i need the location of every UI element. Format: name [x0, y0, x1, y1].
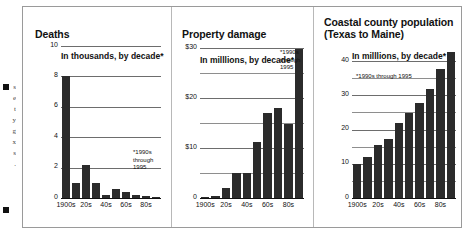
bleed-square-bottom	[3, 207, 9, 213]
y-axis-tick-label: 10	[50, 40, 58, 47]
bar	[447, 52, 455, 198]
x-axis-tick-label: 40s	[241, 201, 252, 208]
x-axis-tick-label: 20s	[80, 201, 91, 208]
x-axis-tick-label: 80s	[140, 201, 151, 208]
bar	[436, 69, 444, 198]
y-axis-tick-label: $10	[185, 142, 197, 149]
bar	[363, 157, 371, 198]
bar	[415, 103, 423, 198]
bar	[222, 188, 230, 198]
y-axis-tick-label: $20	[185, 92, 197, 99]
chart-footnote-property-damage: *1990s through 1995	[280, 49, 300, 72]
bar	[122, 192, 130, 198]
bar	[82, 165, 90, 198]
y-axis-tick-label: 6	[54, 101, 58, 108]
bar	[243, 173, 251, 198]
y-axis-tick-label: 20	[341, 124, 349, 131]
bar	[142, 196, 150, 198]
bar	[152, 197, 160, 198]
bar	[211, 196, 219, 198]
bar	[232, 173, 240, 198]
chart-title-coastal-population: Coastal county population (Texas to Main…	[324, 17, 463, 40]
chart-footnote-coastal-population: *1990s through 1995	[356, 73, 412, 81]
plot-area-deaths: 0246810	[61, 47, 161, 199]
bar	[132, 195, 140, 198]
bar	[274, 108, 282, 198]
y-axis-tick-label: 4	[54, 131, 58, 138]
y-axis-tick-label: 2	[54, 162, 58, 169]
bar	[405, 113, 413, 198]
bar	[284, 124, 292, 199]
plot-area-property-damage: 0$10$20$30	[200, 49, 304, 199]
y-axis-tick-label: 30	[341, 89, 349, 96]
bar	[92, 183, 100, 198]
bar	[263, 113, 271, 198]
x-axis-tick-label: 80s	[435, 201, 446, 208]
plot-area-coastal-population: 010203040	[352, 45, 456, 199]
bar-group	[61, 47, 161, 198]
chart-panel-deaths: Deaths In thousands, by decade* *1990s t…	[23, 7, 171, 227]
y-axis-tick-label: 10	[341, 158, 349, 165]
chart-frame: Deaths In thousands, by decade* *1990s t…	[22, 6, 462, 228]
bar	[384, 139, 392, 199]
infographic-root: s e t y g x s . Deaths In thousands, by …	[0, 0, 468, 238]
x-axis-tick-label: 1900s	[56, 201, 75, 208]
x-axis-tick-label: 1900s	[196, 201, 215, 208]
bleed-square-top	[3, 84, 9, 90]
bar	[374, 145, 382, 198]
x-axis-tick-label: 60s	[262, 201, 273, 208]
bar	[62, 76, 70, 198]
chart-footnote-deaths: *1990s through 1995	[133, 149, 153, 172]
bar	[201, 197, 209, 198]
x-axis-tick-label: 60s	[414, 201, 425, 208]
bar	[102, 195, 110, 198]
y-axis-tick-label: $30	[185, 42, 197, 49]
x-axis-tick-label: 20s	[372, 201, 383, 208]
chart-title-property-damage: Property damage	[182, 29, 266, 41]
x-axis-tick-label: 40s	[100, 201, 111, 208]
bar	[353, 164, 361, 198]
bar	[112, 189, 120, 198]
axis-baseline	[352, 198, 456, 199]
axis-baseline	[200, 198, 304, 199]
chart-panel-coastal-population: Coastal county population (Texas to Main…	[313, 7, 463, 227]
x-axis-tick-label: 80s	[283, 201, 294, 208]
page-bleed-text: s e t y g x s .	[0, 82, 16, 222]
bar	[72, 183, 80, 198]
bar	[395, 123, 403, 198]
bar-group	[352, 45, 456, 198]
y-axis-tick-label: 0	[54, 192, 58, 199]
y-axis-tick-label: 40	[341, 55, 349, 62]
axis-baseline	[61, 198, 161, 199]
x-axis-tick-label: 40s	[393, 201, 404, 208]
y-axis-tick-label: 0	[345, 192, 349, 199]
x-axis-tick-label: 20s	[220, 201, 231, 208]
chart-panel-property-damage: Property damage In milllions, by decade*…	[171, 7, 313, 227]
chart-title-deaths: Deaths	[35, 29, 69, 41]
bar	[426, 89, 434, 198]
bar	[253, 142, 261, 198]
chart-subtitle-coastal-population: In milllions, by decade*	[352, 51, 446, 61]
x-axis-tick-label: 60s	[120, 201, 131, 208]
x-axis-tick-label: 1900s	[348, 201, 367, 208]
chart-subtitle-deaths: In thousands, by decade*	[61, 51, 164, 61]
y-axis-tick-label: 8	[54, 70, 58, 77]
y-axis-tick-label: 0	[193, 192, 197, 199]
